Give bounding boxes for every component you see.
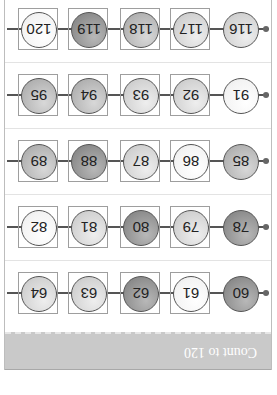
string-knot-icon bbox=[263, 158, 269, 164]
number-bead: 91 bbox=[223, 78, 259, 114]
bead-number: 119 bbox=[77, 22, 101, 39]
bead-number: 118 bbox=[129, 22, 153, 39]
row-divider bbox=[5, 260, 271, 261]
bead-row: 7879808182 bbox=[5, 194, 271, 260]
string-knot-icon bbox=[263, 92, 269, 98]
number-bead: 79 bbox=[173, 210, 209, 246]
bead-number: 87 bbox=[133, 154, 150, 171]
bead-number: 88 bbox=[81, 154, 98, 171]
number-bead: 116 bbox=[223, 12, 259, 48]
number-bead: 60 bbox=[223, 276, 259, 312]
bead-number: 92 bbox=[183, 88, 200, 105]
string-knot-icon bbox=[263, 290, 269, 296]
bead-number: 64 bbox=[31, 286, 48, 303]
number-bead: 64 bbox=[21, 276, 57, 312]
row-divider bbox=[5, 194, 271, 195]
number-bead: 95 bbox=[21, 78, 57, 114]
number-bead: 78 bbox=[223, 210, 259, 246]
worksheet-card: Count to 120 606162636478798081828586878… bbox=[4, 0, 272, 370]
bead-row: 9192939495 bbox=[5, 62, 271, 128]
worksheet-title: Count to 120 bbox=[184, 344, 257, 360]
number-bead: 119 bbox=[71, 12, 107, 48]
worksheet: Count to 120 606162636478798081828586878… bbox=[0, 0, 277, 395]
bead-number: 89 bbox=[31, 154, 48, 171]
number-bead: 62 bbox=[123, 276, 159, 312]
bead-row: 6061626364 bbox=[5, 260, 271, 326]
bead-number: 94 bbox=[81, 88, 98, 105]
string-knot-icon bbox=[263, 224, 269, 230]
bead-number: 61 bbox=[183, 286, 200, 303]
number-bead: 61 bbox=[173, 276, 209, 312]
bead-number: 95 bbox=[31, 88, 48, 105]
number-bead: 81 bbox=[71, 210, 107, 246]
number-bead: 82 bbox=[21, 210, 57, 246]
number-bead: 89 bbox=[21, 144, 57, 180]
number-bead: 87 bbox=[123, 144, 159, 180]
bead-number: 79 bbox=[183, 220, 200, 237]
bead-number: 91 bbox=[233, 88, 250, 105]
number-bead: 63 bbox=[71, 276, 107, 312]
bead-number: 63 bbox=[81, 286, 98, 303]
number-bead: 94 bbox=[71, 78, 107, 114]
bead-number: 81 bbox=[81, 220, 98, 237]
number-bead: 86 bbox=[173, 144, 209, 180]
number-bead: 88 bbox=[71, 144, 107, 180]
bead-number: 93 bbox=[133, 88, 150, 105]
bead-number: 116 bbox=[229, 22, 253, 39]
bead-number: 82 bbox=[31, 220, 48, 237]
bead-number: 85 bbox=[233, 154, 250, 171]
bead-number: 62 bbox=[133, 286, 150, 303]
bead-number: 117 bbox=[179, 22, 203, 39]
number-bead: 118 bbox=[123, 12, 159, 48]
bead-number: 80 bbox=[133, 220, 150, 237]
number-bead: 85 bbox=[223, 144, 259, 180]
dashed-divider bbox=[5, 332, 271, 334]
row-divider bbox=[5, 128, 271, 129]
bead-number: 78 bbox=[233, 220, 250, 237]
bead-row: 8586878889 bbox=[5, 128, 271, 194]
number-bead: 117 bbox=[173, 12, 209, 48]
string-knot-icon bbox=[263, 26, 269, 32]
bead-number: 86 bbox=[183, 154, 200, 171]
bead-number: 120 bbox=[26, 22, 51, 39]
row-divider bbox=[5, 62, 271, 63]
number-bead: 93 bbox=[123, 78, 159, 114]
number-bead: 92 bbox=[173, 78, 209, 114]
title-band: Count to 120 bbox=[5, 332, 271, 370]
bead-number: 60 bbox=[233, 286, 250, 303]
number-bead: 120 bbox=[21, 12, 57, 48]
bead-row: 116117118119120 bbox=[5, 0, 271, 62]
number-bead: 80 bbox=[123, 210, 159, 246]
